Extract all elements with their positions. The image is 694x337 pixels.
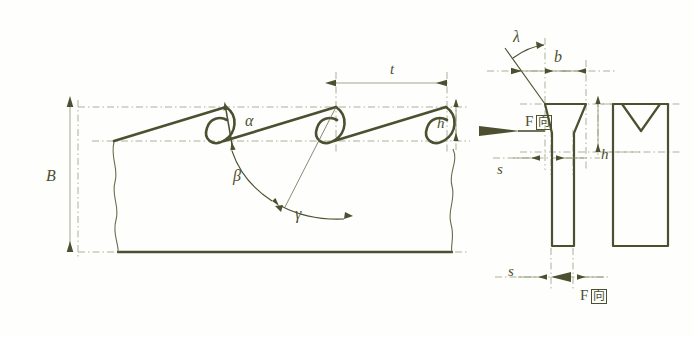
gamma-construction [285, 107, 336, 207]
left-break-line [113, 142, 118, 252]
end-view-outline [613, 104, 668, 246]
figure-canvas: B t h α β γ λ b s s h F向 F向 [0, 0, 694, 337]
right-break-line [450, 149, 455, 252]
front-construction-lines [487, 38, 640, 290]
tooth-3 [334, 107, 455, 143]
view-arrow-F-bottom [551, 272, 571, 282]
lambda-arrow-head [536, 42, 544, 50]
gamma-arc [281, 206, 344, 219]
front-section-view [487, 38, 640, 290]
view-arrow-F-main-head [479, 126, 520, 136]
tooth-1 [114, 107, 235, 143]
front-tooth-outline [545, 104, 586, 246]
technical-drawing-svg [0, 0, 694, 337]
main-side-view [70, 72, 545, 258]
angle-lambda-indicator [505, 42, 545, 105]
end-view-hidden-aux [618, 131, 664, 152]
angle-gamma-indicator [275, 205, 353, 219]
construction-lines [78, 72, 470, 258]
lambda-ref-line [505, 48, 545, 104]
end-view [600, 104, 680, 246]
end-view-v-groove [622, 104, 660, 131]
view-arrow-F-bottom-head [551, 272, 571, 282]
beta-arc [232, 151, 272, 201]
angle-beta-indicator [232, 151, 279, 206]
beta-arrow-head [272, 198, 279, 206]
gamma-arrow-head-left [275, 205, 283, 212]
gamma-arrow-head-right [344, 212, 353, 219]
view-arrow-F-main [479, 126, 545, 136]
